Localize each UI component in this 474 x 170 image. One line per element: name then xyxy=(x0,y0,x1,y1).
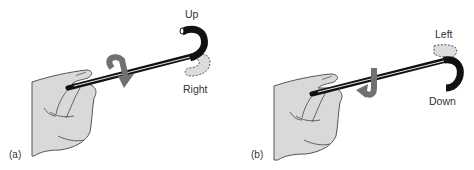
direction-label-right: Right xyxy=(183,84,208,95)
direction-label-down: Down xyxy=(429,96,456,107)
panel-b: Left Down (b) xyxy=(234,0,471,170)
solid-tip-down xyxy=(444,60,460,88)
direction-label-up: Up xyxy=(185,9,198,20)
dashed-tip-left xyxy=(434,45,457,58)
panel-a: Up Right (a) xyxy=(0,0,237,170)
panel-label-b: (b) xyxy=(251,150,263,160)
direction-label-left: Left xyxy=(435,29,453,40)
panel-b-illustration xyxy=(234,0,474,170)
solid-tip-up xyxy=(182,29,204,58)
panel-label-a: (a) xyxy=(9,150,21,160)
